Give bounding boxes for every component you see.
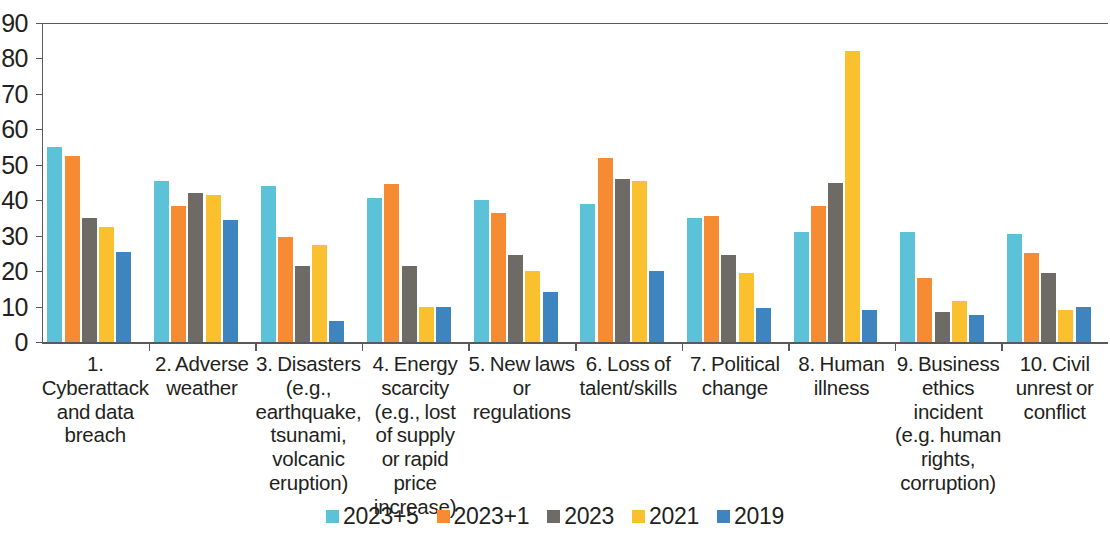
category-label-line: (e.g. human [892,423,1005,447]
bar-group [788,23,895,342]
x-axis-category-label: 1. Cyberattackand databreach [39,352,152,447]
category-label-line: regulations [465,400,578,424]
bar [649,271,664,342]
bar [543,292,558,342]
y-axis-tick-label: 10 [1,294,28,319]
legend-swatch-icon [632,510,645,523]
bar [862,310,877,342]
bar [312,245,327,342]
y-axis-tick-label: 30 [1,223,28,248]
category-label-line: 1. Cyberattack [39,352,152,400]
bar [845,51,860,342]
bar [116,252,131,342]
bar [1041,273,1056,342]
bar [188,193,203,342]
y-axis-tick-label: 80 [1,46,28,71]
category-label-line: scarcity [359,376,472,400]
bar-group [682,23,789,342]
category-label-line: illness [785,376,898,400]
bar [580,204,595,342]
category-label-line: (e.g., lost [359,400,472,424]
bar [436,307,451,342]
bar [811,206,826,342]
y-axis-tick-mark [36,200,43,201]
x-axis-tick-mark [149,343,151,351]
legend-swatch-icon [437,510,450,523]
y-axis-tick-mark [36,342,43,343]
category-label-line: eruption) [252,471,365,495]
bar [47,147,62,342]
legend-item[interactable]: 2023+1 [437,505,530,528]
bar-group [42,23,149,342]
legend-label: 2023+1 [454,505,530,528]
y-axis-tick-mark [36,236,43,237]
y-axis-tick-label: 60 [1,117,28,142]
bar-group [1001,23,1108,342]
x-axis-tick-mark [682,343,684,351]
bar [917,278,932,342]
bar [525,271,540,342]
bar [329,321,344,342]
x-axis-category-label: 2. Adverseweather [146,352,259,400]
bar [969,315,984,342]
x-axis-tick-mark [255,343,257,351]
x-axis-tick-mark [575,343,577,351]
bar [828,183,843,343]
category-label-line: 3. Disasters [252,352,365,376]
bar [474,200,489,342]
x-axis-category-label: 9. Businessethics incident(e.g. humanrig… [892,352,1005,495]
x-axis-category-label: 3. Disasters(e.g.,earthquake,tsunami,vol… [252,352,365,495]
y-axis-tick-label: 0 [15,330,28,355]
bar [687,218,702,342]
legend-label: 2021 [649,505,699,528]
bar [223,220,238,342]
bar-chart: 9080706050403020100 1. Cyberattackand da… [0,0,1110,539]
y-axis-tick-mark [36,165,43,166]
category-label-line: or rapid price [359,447,472,495]
legend-item[interactable]: 2023 [547,505,614,528]
x-axis-category-label: 10. Civilunrest orconflict [998,352,1110,423]
bar [739,273,754,342]
category-label-line: 5. New laws [465,352,578,376]
category-label-line: breach [39,423,152,447]
bar [508,255,523,342]
x-axis-tick-mark [468,343,470,351]
x-axis-category-label: 7. Politicalchange [679,352,792,400]
x-axis-category-labels: 1. Cyberattackand databreach2. Adversewe… [42,352,1108,492]
legend-item[interactable]: 2021 [632,505,699,528]
bar [935,312,950,342]
category-label-line: change [679,376,792,400]
category-label-line: 6. Loss of [572,352,685,376]
bar [402,266,417,342]
y-axis-tick-label: 40 [1,188,28,213]
legend-swatch-icon [717,510,730,523]
x-axis-category-label: 6. Loss oftalent/skills [572,352,685,400]
y-axis-tick-mark [36,23,43,24]
legend-item[interactable]: 2023+5 [326,505,419,528]
category-label-line: or [465,376,578,400]
category-label-line: unrest or [998,376,1110,400]
y-axis-tick-label: 20 [1,259,28,284]
y-axis-tick-mark [36,307,43,308]
bar [278,237,293,342]
x-axis-tick-mark [895,343,897,351]
bar-group [895,23,1002,342]
x-axis-tick-mark [1001,343,1003,351]
bar [794,232,809,342]
bar [952,301,967,342]
category-label-line: 9. Business [892,352,1005,376]
category-label-line: 10. Civil [998,352,1110,376]
y-axis-tick-mark [36,129,43,130]
bar [598,158,613,342]
category-label-line: 7. Political [679,352,792,376]
legend-item[interactable]: 2019 [717,505,784,528]
bar-group [149,23,256,342]
category-label-line: 8. Human [785,352,898,376]
bar [1024,253,1039,342]
bar [721,255,736,342]
legend-label: 2023 [564,505,614,528]
x-axis-tick-mark [788,343,790,351]
bar-group [255,23,362,342]
category-label-line: and data [39,400,152,424]
x-axis-category-label: 4. Energyscarcity(e.g., lostof supplyor … [359,352,472,518]
